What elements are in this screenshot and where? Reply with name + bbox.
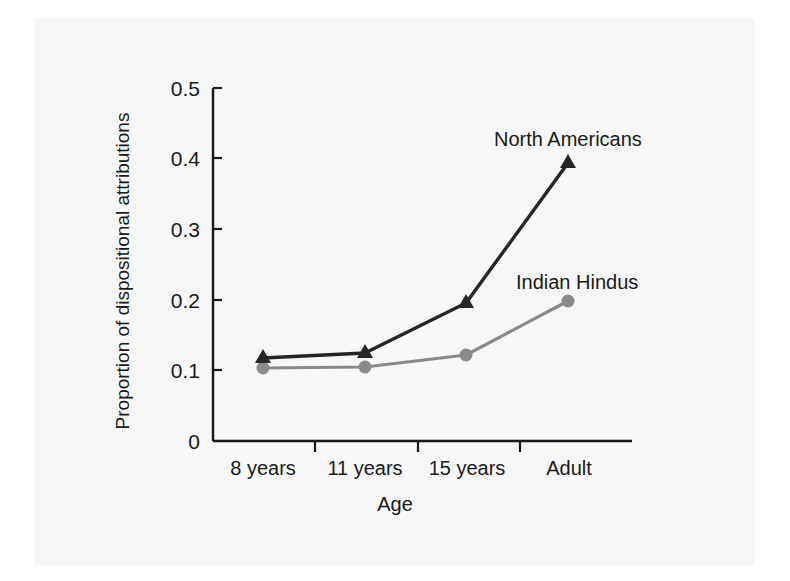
x-axis-tick-label: 11 years <box>311 458 419 478</box>
series-indian-hindus <box>257 295 575 375</box>
y-axis-tick-label: 0.4 <box>154 148 200 169</box>
data-point-marker <box>460 349 473 362</box>
chart-figure: 0.5 0.4 0.3 0.2 0.1 0 8 years 11 years 1… <box>0 0 790 581</box>
y-axis-tick-label: 0.1 <box>154 360 200 381</box>
series-indian-hindus-line <box>263 301 568 368</box>
data-point-marker <box>359 361 372 374</box>
series-label-indian-hindus: Indian Hindus <box>516 271 638 294</box>
series-label-north-americans: North Americans <box>494 128 642 151</box>
series-north-americans <box>255 154 576 363</box>
x-axis-title: Age <box>0 493 790 516</box>
data-point-marker <box>255 349 271 363</box>
y-axis-tick-label: 0.5 <box>154 78 200 99</box>
data-point-marker <box>560 154 576 168</box>
y-axis-title: Proportion of dispositional attributions <box>112 106 134 436</box>
x-axis-tick-label: 15 years <box>413 458 521 478</box>
data-point-marker <box>562 295 575 308</box>
y-axis-tick-label: 0.2 <box>154 290 200 311</box>
x-axis-tick-label: 8 years <box>209 458 317 478</box>
y-axis-tick-label: 0.3 <box>154 219 200 240</box>
data-point-marker <box>257 362 270 375</box>
x-axis-tick-label: Adult <box>515 458 623 478</box>
y-axis-tick-label: 0 <box>154 431 200 452</box>
series-north-americans-line <box>263 163 568 358</box>
